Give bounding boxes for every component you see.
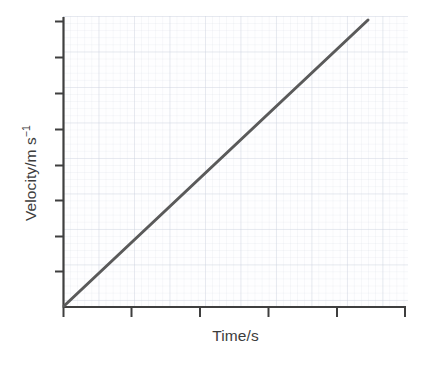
velocity-time-graph-figure: Velocity/m s−1 Time/s [0, 0, 432, 367]
x-axis-ticks [64, 307, 406, 317]
y-axis-label: Velocity/m s−1 [20, 83, 40, 263]
velocity-data-line [64, 20, 368, 306]
x-axis-label: Time/s [63, 327, 408, 345]
y-axis-label-exponent: −1 [20, 125, 32, 137]
y-axis-label-text: Velocity/m s [22, 137, 39, 221]
plot-area [0, 0, 432, 367]
